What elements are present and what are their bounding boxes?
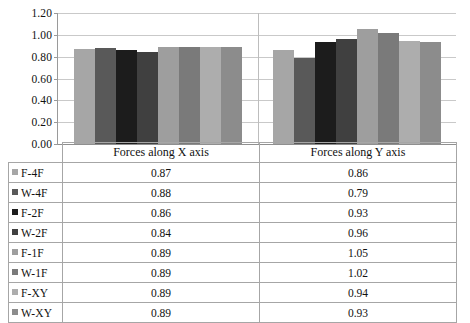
bar xyxy=(378,33,399,144)
bar-group xyxy=(58,13,258,144)
bar xyxy=(95,48,116,144)
legend-series-label: W-XY xyxy=(21,307,52,319)
legend-entry: F-4F xyxy=(9,163,63,183)
bar xyxy=(315,42,336,144)
legend-swatch-icon xyxy=(12,269,18,275)
legend-series-label: F-2F xyxy=(21,207,44,219)
table-value-cell: 0.89 xyxy=(63,263,260,283)
legend-swatch-icon xyxy=(12,189,18,195)
bar xyxy=(74,49,95,144)
table-header-row: Forces along X axisForces along Y axis xyxy=(9,143,457,163)
bar xyxy=(273,50,294,144)
bar xyxy=(221,47,242,144)
table-value-cell: 0.89 xyxy=(63,243,260,263)
chart-data-table: Forces along X axisForces along Y axisF-… xyxy=(8,142,457,323)
bar xyxy=(420,42,441,144)
table-column-header: Forces along X axis xyxy=(63,143,260,163)
table-value-cell: 0.86 xyxy=(63,203,260,223)
table-value-cell: 0.96 xyxy=(260,223,457,243)
bar xyxy=(357,29,378,144)
table-value-cell: 1.05 xyxy=(260,243,457,263)
table-value-cell: 0.86 xyxy=(260,163,457,183)
table-row: W-1F0.891.02 xyxy=(9,263,457,283)
y-axis-tick-label: 0.40 xyxy=(4,95,52,106)
legend-entry: W-1F xyxy=(9,263,63,283)
legend-series-label: F-XY xyxy=(21,287,48,299)
table-corner-cell xyxy=(9,143,63,163)
legend-entry: W-2F xyxy=(9,223,63,243)
legend-swatch-icon xyxy=(12,209,18,215)
table-row: F-2F0.860.93 xyxy=(9,203,457,223)
y-axis-tick-label: 0.20 xyxy=(4,117,52,128)
legend-swatch-icon xyxy=(12,169,18,175)
bar xyxy=(399,41,420,144)
legend-swatch-icon xyxy=(12,289,18,295)
legend-swatch-icon xyxy=(12,229,18,235)
legend-entry: F-XY xyxy=(9,283,63,303)
plot-area xyxy=(57,13,456,144)
y-axis-tick-labels: 0.000.200.400.600.801.001.20 xyxy=(4,8,52,144)
legend-entry: F-2F xyxy=(9,203,63,223)
bar-group xyxy=(258,13,458,144)
y-axis-tick-label: 1.20 xyxy=(4,8,52,19)
table-column-header: Forces along Y axis xyxy=(260,143,457,163)
legend-series-label: W-4F xyxy=(21,187,48,199)
bar xyxy=(200,47,221,144)
legend-series-label: F-4F xyxy=(21,167,44,179)
table-value-cell: 0.84 xyxy=(63,223,260,243)
table-row: W-4F0.880.79 xyxy=(9,183,457,203)
bar xyxy=(294,58,315,144)
table-value-cell: 0.87 xyxy=(63,163,260,183)
bars-layer xyxy=(58,13,456,144)
y-axis-tick-label: 1.00 xyxy=(4,29,52,40)
legend-swatch-icon xyxy=(12,249,18,255)
category-divider xyxy=(258,13,259,144)
legend-entry: W-XY xyxy=(9,303,63,323)
table-value-cell: 0.93 xyxy=(260,303,457,323)
table-value-cell: 1.02 xyxy=(260,263,457,283)
table-row: F-4F0.870.86 xyxy=(9,163,457,183)
legend-entry: W-4F xyxy=(9,183,63,203)
table-value-cell: 0.94 xyxy=(260,283,457,303)
bar xyxy=(116,50,137,144)
y-axis-tick-label: 0.80 xyxy=(4,51,52,62)
bar xyxy=(137,52,158,144)
legend-series-label: W-1F xyxy=(21,267,48,279)
table-value-cell: 0.79 xyxy=(260,183,457,203)
legend-entry: F-1F xyxy=(9,243,63,263)
bar xyxy=(158,47,179,144)
bar xyxy=(179,47,200,144)
table-value-cell: 0.88 xyxy=(63,183,260,203)
table-value-cell: 0.89 xyxy=(63,283,260,303)
bar xyxy=(336,39,357,144)
table-row: W-XY0.890.93 xyxy=(9,303,457,323)
legend-swatch-icon xyxy=(12,309,18,315)
y-axis-tick-label: 0.60 xyxy=(4,73,52,84)
table-row: F-XY0.890.94 xyxy=(9,283,457,303)
table-value-cell: 0.93 xyxy=(260,203,457,223)
legend-series-label: F-1F xyxy=(21,247,44,259)
table-row: W-2F0.840.96 xyxy=(9,223,457,243)
table-row: F-1F0.891.05 xyxy=(9,243,457,263)
plot-wrapper: 0.000.200.400.600.801.001.20 xyxy=(0,0,470,152)
legend-series-label: W-2F xyxy=(21,227,48,239)
table-value-cell: 0.89 xyxy=(63,303,260,323)
